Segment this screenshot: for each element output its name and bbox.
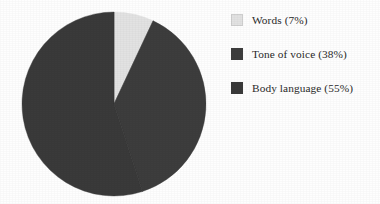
chart-legend: Words (7%) Tone of voice (38%) Body lang… [231, 12, 380, 114]
pie-chart-svg [0, 0, 218, 204]
legend-swatch-tone-of-voice [231, 48, 243, 60]
legend-swatch-words [231, 14, 243, 26]
legend-swatch-body-language [231, 82, 243, 94]
legend-item-words[interactable]: Words (7%) [231, 12, 380, 28]
legend-label-words: Words (7%) [252, 14, 308, 27]
pie-chart-figure: Words (7%) Tone of voice (38%) Body lang… [0, 0, 380, 204]
legend-item-body-language[interactable]: Body language (55%) [231, 80, 380, 96]
legend-item-tone-of-voice[interactable]: Tone of voice (38%) [231, 46, 380, 62]
legend-label-body-language: Body language (55%) [252, 82, 353, 95]
legend-label-tone-of-voice: Tone of voice (38%) [252, 48, 347, 61]
pie-chart-plot [0, 0, 218, 204]
